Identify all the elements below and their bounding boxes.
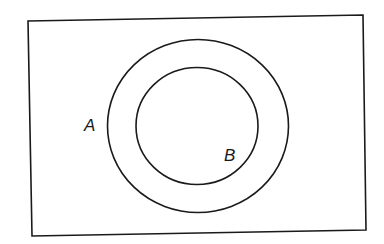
universal-set-rectangle — [28, 15, 366, 236]
set-a-label: A — [83, 116, 95, 135]
venn-diagram: A B — [0, 0, 384, 244]
set-b-label: B — [224, 146, 235, 165]
set-b-circle — [136, 68, 258, 185]
set-a-circle — [108, 40, 289, 213]
